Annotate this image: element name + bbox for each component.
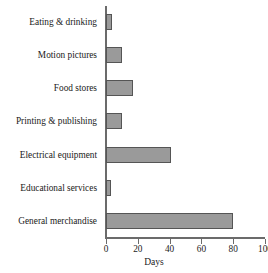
tick-label: 40 bbox=[165, 244, 174, 254]
bar-row bbox=[106, 205, 265, 238]
bar bbox=[106, 213, 233, 229]
bar bbox=[106, 80, 133, 96]
bar-chart: Eating & drinking Motion pictures Food s… bbox=[0, 0, 268, 273]
bar-row bbox=[106, 39, 265, 72]
bar-row bbox=[106, 105, 265, 138]
category-label: Eating & drinking bbox=[29, 6, 97, 39]
bar-row bbox=[106, 139, 265, 172]
bar-row bbox=[106, 6, 265, 39]
plot-area bbox=[106, 6, 265, 238]
value-axis-title-text: Days bbox=[144, 257, 164, 267]
category-label: Electrical equipment bbox=[20, 139, 97, 172]
bar bbox=[106, 113, 122, 129]
category-axis-labels: Eating & drinking Motion pictures Food s… bbox=[0, 6, 101, 238]
bar-row bbox=[106, 172, 265, 205]
tick-label: 60 bbox=[197, 244, 206, 254]
category-label: Educational services bbox=[20, 172, 97, 205]
bar bbox=[106, 47, 122, 63]
bar bbox=[106, 14, 112, 30]
category-label: General merchandise bbox=[18, 205, 97, 238]
tick-label: 0 bbox=[104, 244, 109, 254]
bar bbox=[106, 180, 111, 196]
category-label: Motion pictures bbox=[38, 39, 97, 72]
tick-label: 100 bbox=[258, 244, 268, 254]
value-axis-title: Days bbox=[0, 257, 268, 267]
category-label: Printing & publishing bbox=[16, 105, 97, 138]
bar-row bbox=[106, 72, 265, 105]
category-label: Food stores bbox=[54, 72, 97, 105]
bar bbox=[106, 147, 171, 163]
tick-label: 80 bbox=[229, 244, 238, 254]
tick-label: 20 bbox=[133, 244, 142, 254]
bars-layer bbox=[106, 6, 265, 238]
